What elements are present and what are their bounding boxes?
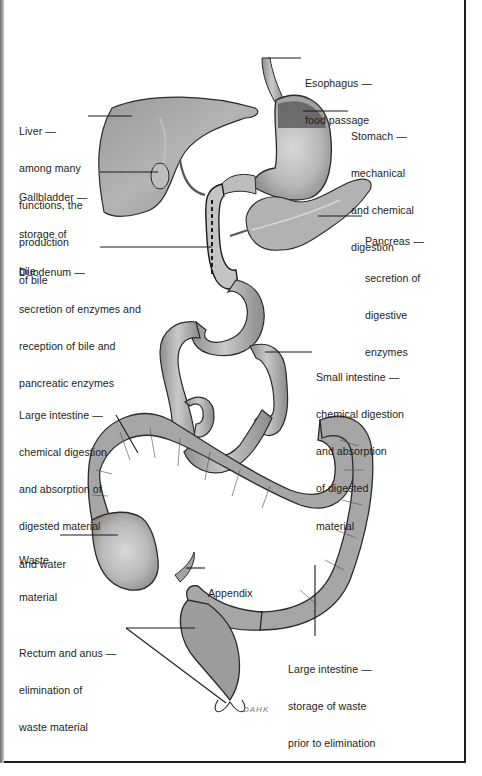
liver-shape bbox=[99, 97, 258, 216]
label-appendix: Appendix bbox=[208, 562, 253, 612]
label-small-intestine: Small intestine — chemical digestion and… bbox=[316, 346, 404, 545]
esophagus-shape bbox=[262, 58, 284, 102]
duodenum-shape bbox=[206, 184, 238, 289]
artist-signature: DAHK bbox=[243, 705, 269, 714]
gallbladder-shape bbox=[151, 163, 169, 189]
label-duodenum: Duodenum — secretion of enzymes and rece… bbox=[19, 241, 141, 402]
label-waste-material: Waste material bbox=[19, 529, 57, 616]
label-large-intestine-lower: Large intestine — storage of waste prior… bbox=[288, 638, 376, 762]
label-rectum-anus: Rectum and anus — elimination of waste m… bbox=[19, 622, 116, 746]
anus-shape bbox=[215, 700, 245, 712]
appendix-shape bbox=[175, 552, 194, 582]
